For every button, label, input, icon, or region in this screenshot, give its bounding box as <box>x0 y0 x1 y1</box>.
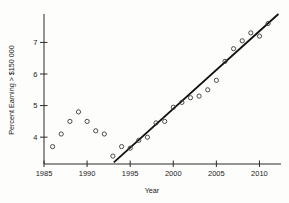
data-point <box>120 145 124 149</box>
x-tick-label: 1985 <box>36 169 53 178</box>
y-tick-label: 4 <box>33 133 37 142</box>
data-point <box>59 132 63 136</box>
data-point <box>232 47 236 51</box>
data-point <box>188 96 192 100</box>
chart-layer: 1985199019952000200520104567 <box>33 14 281 178</box>
data-point <box>111 154 115 158</box>
data-point <box>257 34 261 38</box>
data-point <box>163 119 167 123</box>
data-point <box>85 119 89 123</box>
x-tick-label: 1995 <box>122 169 139 178</box>
data-point <box>240 39 244 43</box>
data-point <box>249 31 253 35</box>
axes-line <box>44 14 281 164</box>
data-point <box>197 94 201 98</box>
scatter-plot-figure: 1985199019952000200520104567 Percent Ear… <box>0 0 289 203</box>
trend-line <box>114 14 279 162</box>
x-tick-label: 2000 <box>165 169 182 178</box>
y-tick-label: 7 <box>33 38 37 47</box>
y-tick-label: 5 <box>33 101 37 110</box>
data-point <box>68 119 72 123</box>
data-point <box>94 129 98 133</box>
data-point <box>214 78 218 82</box>
data-point <box>145 135 149 139</box>
x-tick-label: 2010 <box>251 169 268 178</box>
data-point <box>102 132 106 136</box>
data-point <box>76 110 80 114</box>
data-point <box>51 145 55 149</box>
scatter-chart-canvas: 1985199019952000200520104567 Percent Ear… <box>0 0 289 203</box>
x-axis-title: Year <box>145 186 160 195</box>
x-tick-label: 1990 <box>79 169 96 178</box>
y-axis-title: Percent Earning > $150 000 <box>7 45 16 135</box>
data-point <box>206 88 210 92</box>
y-tick-label: 6 <box>33 70 37 79</box>
x-tick-label: 2005 <box>208 169 225 178</box>
